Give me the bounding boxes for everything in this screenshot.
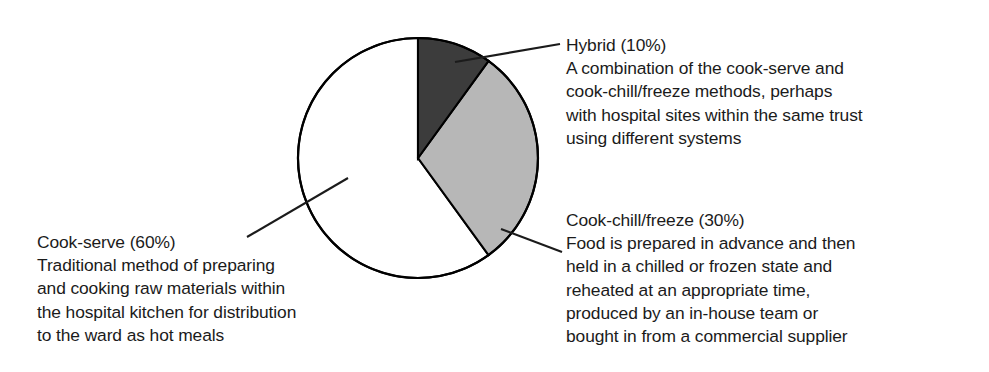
callout-body-line: to the ward as hot meals	[37, 324, 296, 347]
callout-label-hybrid: Hybrid (10%) A combination of the cook-s…	[566, 34, 863, 150]
callout-body-line: bought in from a commercial supplier	[566, 325, 855, 348]
pie-chart-figure: Hybrid (10%) A combination of the cook-s…	[0, 0, 989, 372]
callout-body-line: with hospital sites within the same trus…	[566, 104, 863, 127]
callout-body-line: the hospital kitchen for distribution	[37, 301, 296, 324]
callout-body-line: produced by an in-house team or	[566, 302, 855, 325]
callout-body-line: Traditional method of preparing	[37, 254, 296, 277]
callout-title-hybrid: Hybrid (10%)	[566, 34, 863, 57]
callout-body-line: using different systems	[566, 127, 863, 150]
callout-title-cook-chill-freeze: Cook-chill/freeze (30%)	[566, 209, 855, 232]
callout-label-cook-serve: Cook-serve (60%) Traditional method of p…	[37, 231, 296, 347]
callout-title-cook-serve: Cook-serve (60%)	[37, 231, 296, 254]
leader-line-cook-chill-freeze	[501, 229, 562, 252]
callout-body-line: reheated at an appropriate time,	[566, 279, 855, 302]
callout-body-line: and cooking raw materials within	[37, 277, 296, 300]
callout-body-line: cook-chill/freeze methods, perhaps	[566, 80, 863, 103]
callout-body-line: A combination of the cook-serve and	[566, 57, 863, 80]
callout-body-line: Food is prepared in advance and then	[566, 232, 855, 255]
callout-body-line: held in a chilled or frozen state and	[566, 255, 855, 278]
callout-label-cook-chill-freeze: Cook-chill/freeze (30%) Food is prepared…	[566, 209, 855, 348]
